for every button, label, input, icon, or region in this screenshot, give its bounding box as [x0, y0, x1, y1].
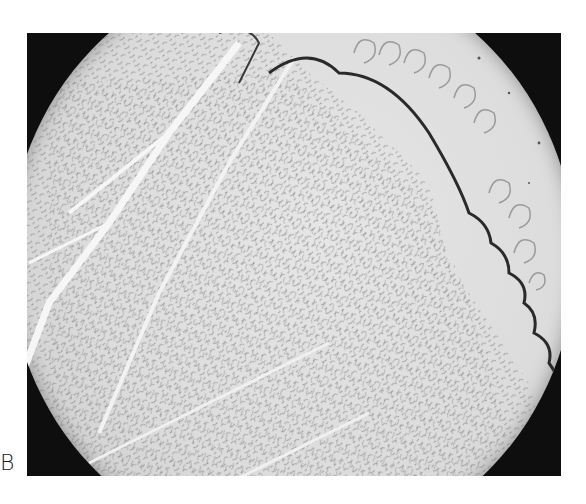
panel-label: B	[0, 452, 14, 474]
micrograph-image	[27, 33, 561, 476]
dendrite-pattern-illustration	[27, 33, 561, 476]
circular-field-of-view	[27, 33, 561, 476]
